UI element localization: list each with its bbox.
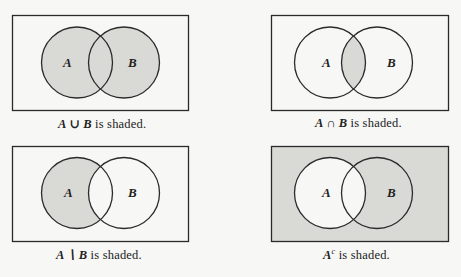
set-b-label: B xyxy=(387,185,396,201)
set-b-label: B xyxy=(387,55,396,71)
caption: A ∩ B is shaded. xyxy=(315,116,402,131)
venn-complement-panel: A B Ac is shaded. xyxy=(230,140,461,277)
caption: A ∪ B is shaded. xyxy=(58,116,146,132)
caption-set: A ∪ B xyxy=(58,117,92,131)
caption-text: is shaded. xyxy=(91,248,142,262)
set-b-label: B xyxy=(128,55,137,71)
caption-text: is shaded. xyxy=(351,116,402,130)
caption-text: is shaded. xyxy=(339,248,390,262)
caption: Ac is shaded. xyxy=(323,247,390,263)
set-a-label: A xyxy=(64,185,73,201)
venn-difference-panel: A B A ∖ B is shaded. xyxy=(0,140,230,277)
caption-set: A ∩ B xyxy=(315,116,347,130)
caption: A ∖ B is shaded. xyxy=(56,247,142,263)
set-a-label: A xyxy=(63,55,72,71)
complement-fill xyxy=(272,147,449,242)
set-a-label: A xyxy=(322,185,331,201)
caption-set: A xyxy=(323,248,332,262)
venn-union-panel: A B A ∪ B is shaded. xyxy=(0,0,230,140)
caption-superscript: c xyxy=(332,247,336,256)
caption-text: is shaded. xyxy=(95,117,146,131)
set-a-label: A xyxy=(322,55,331,71)
venn-intersection-panel: A B A ∩ B is shaded. xyxy=(230,0,461,140)
set-b-label: B xyxy=(128,185,137,201)
caption-set: A ∖ B xyxy=(56,248,87,262)
